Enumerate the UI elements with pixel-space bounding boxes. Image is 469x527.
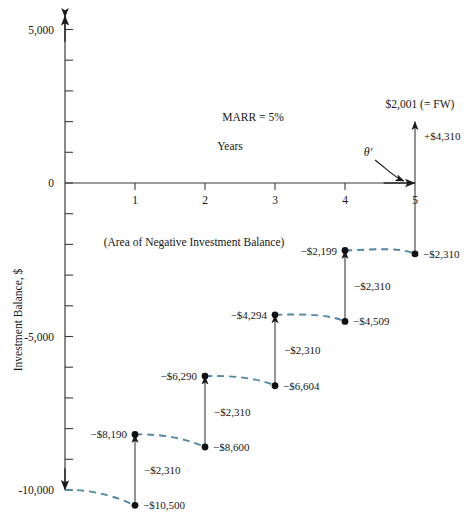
x-tick-label: 4 [342, 194, 348, 206]
x-axis-title: Years [217, 140, 243, 152]
data-point [272, 311, 279, 318]
data-point [412, 251, 419, 258]
payment-amount-label: −$2,310 [354, 280, 391, 292]
y-tick-label-group: 5,0000-5,000-10,000 [19, 24, 55, 498]
interest-growth-curve [135, 434, 205, 447]
data-point [342, 318, 349, 325]
data-point [342, 247, 349, 254]
y-tick-label: -5,000 [24, 331, 54, 344]
theta-leader-line [375, 160, 404, 181]
data-point [202, 444, 209, 451]
data-point [202, 373, 209, 380]
payment-amount-label: −$2,310 [284, 344, 321, 356]
y-axis-title: Investment Balance, $ [12, 269, 25, 372]
data-point [132, 502, 139, 509]
x-tick-label-group: 12345 [132, 194, 418, 206]
y-tick-label: -10,000 [19, 484, 55, 497]
theta-angle-label: θ′ [364, 145, 373, 159]
data-point-label: −$4,509 [353, 315, 390, 327]
chart-canvas: 5,0000-5,000-10,000 12345 −$10,500−$8,19… [0, 0, 469, 527]
data-point-label: −$6,290 [161, 370, 198, 382]
y-tick-label: 0 [48, 177, 54, 189]
x-tick-label: 3 [272, 194, 278, 206]
payment-amount-label: −$2,310 [144, 464, 181, 476]
marr-annotation: MARR = 5% [222, 111, 284, 123]
data-point-label: −$6,604 [283, 380, 320, 392]
x-tick-label: 1 [132, 194, 138, 206]
interest-growth-curve [345, 249, 415, 254]
x-tick-label: 2 [202, 194, 208, 206]
data-point-label: −$10,500 [143, 499, 185, 511]
negative-balance-area-annotation: (Area of Negative Investment Balance) [104, 236, 285, 249]
data-point [132, 431, 139, 438]
payment-amount-label-group: −$2,310−$2,310−$2,310−$2,310+$4,310 [144, 130, 461, 476]
data-point [272, 382, 279, 389]
axes-group [65, 16, 415, 490]
interest-growth-curve [275, 314, 345, 321]
data-point-label: −$8,190 [91, 428, 128, 440]
data-point-label: −$8,600 [213, 441, 250, 453]
future-worth-arrow-label: +$4,310 [424, 130, 461, 142]
investment-balance-figure: 5,0000-5,000-10,000 12345 −$10,500−$8,19… [0, 0, 469, 527]
interest-growth-curve [65, 490, 135, 505]
interest-growth-curve [205, 376, 275, 386]
data-point-label: −$2,310 [423, 248, 460, 260]
future-worth-label: $2,001 (= FW) [386, 98, 455, 111]
data-point-label: −$2,199 [301, 245, 338, 257]
payment-amount-label: −$2,310 [214, 406, 251, 418]
y-tick-label: 5,000 [28, 24, 54, 37]
data-point-label: −$4,294 [231, 309, 268, 321]
